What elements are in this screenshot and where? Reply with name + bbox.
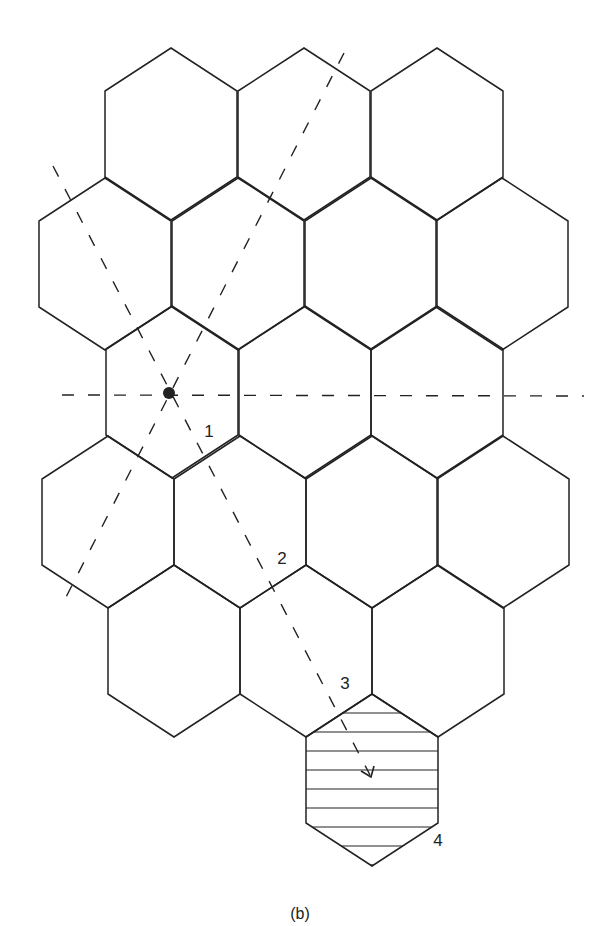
horizontal-axis-dashed-line [62,395,584,396]
hatched-hexagon [306,694,438,866]
hexagon-cell [371,306,503,478]
hexagon-cells [39,48,569,866]
hexagon-cell [172,178,304,350]
hatched-cell [306,713,438,865]
source-dot-icon [163,387,175,399]
hexagon-cell [371,48,503,220]
hexagon-cell [105,48,237,220]
hexagon-cell [436,178,568,350]
figure-caption: (b) [290,906,310,922]
label-3: 3 [340,675,349,692]
label-4: 4 [433,832,442,849]
hexagon-cell [305,178,437,350]
hexagonal-grid-diagram [0,0,607,926]
hexagon-cell [174,436,306,608]
hexagon-cell [238,48,370,220]
hexagon-cell [306,436,438,608]
source-point [163,387,175,399]
label-1: 1 [204,423,213,440]
hexagon-cell [39,178,171,350]
hexagon-cell [42,436,174,608]
hexagon-cell [239,306,371,478]
descending-diagonal-dashed-line [53,166,370,775]
figure-b: 1 2 3 4 (b) [0,0,607,926]
hexagon-cell [108,565,240,737]
label-2: 2 [277,550,286,567]
hexagon-cell [372,565,504,737]
hexagon-cell [437,436,569,608]
